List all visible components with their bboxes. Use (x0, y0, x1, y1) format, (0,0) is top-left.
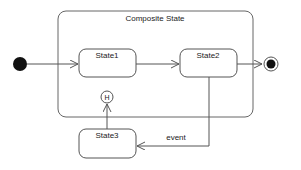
composite-state-label: Composite State (125, 14, 185, 23)
state2-label: State2 (196, 51, 220, 60)
state1-label: State1 (95, 51, 119, 60)
history-label: H (104, 94, 109, 101)
state3[interactable]: State3 (79, 129, 136, 158)
initial-node[interactable] (13, 57, 27, 71)
history-node[interactable]: H (101, 91, 113, 103)
state1[interactable]: State1 (79, 49, 136, 77)
state2[interactable]: State2 (180, 49, 237, 77)
transition-event-label: event (166, 133, 186, 142)
state-diagram: Composite State event State1 State2 H St… (0, 0, 301, 170)
final-node[interactable] (264, 57, 278, 71)
state3-label: State3 (95, 131, 119, 140)
